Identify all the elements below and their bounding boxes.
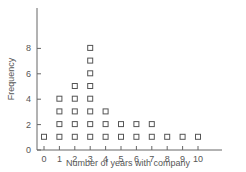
data-point-marker (196, 134, 201, 139)
data-point-marker (72, 84, 77, 89)
dot-plot-chart: 02468 012345678910 Number of years with … (0, 0, 246, 172)
data-point-marker (103, 134, 108, 139)
data-point-marker (149, 134, 154, 139)
data-point-marker (119, 134, 124, 139)
axes (37, 8, 222, 150)
data-points (42, 45, 201, 139)
data-point-marker (72, 96, 77, 101)
x-tick-label: 1 (57, 154, 62, 164)
y-tick-label: 4 (26, 94, 31, 104)
y-tick-label: 0 (26, 145, 31, 155)
x-axis-title: Number of years with company (66, 158, 191, 168)
data-point-marker (149, 122, 154, 127)
data-point-marker (103, 122, 108, 127)
data-point-marker (88, 96, 93, 101)
data-point-marker (88, 58, 93, 63)
y-axis-title: Frequency (6, 57, 16, 100)
data-point-marker (88, 84, 93, 89)
data-point-marker (57, 109, 62, 114)
data-point-marker (57, 96, 62, 101)
data-point-marker (42, 134, 47, 139)
x-tick-label: 10 (193, 154, 203, 164)
data-point-marker (88, 122, 93, 127)
data-point-marker (57, 122, 62, 127)
y-tick-label: 8 (26, 43, 31, 53)
data-point-marker (88, 109, 93, 114)
y-tick-label: 2 (26, 120, 31, 130)
data-point-marker (88, 134, 93, 139)
data-point-marker (72, 122, 77, 127)
data-point-marker (165, 134, 170, 139)
data-point-marker (119, 122, 124, 127)
data-point-marker (88, 71, 93, 76)
data-point-marker (72, 109, 77, 114)
data-point-marker (88, 45, 93, 50)
data-point-marker (103, 109, 108, 114)
y-ticks: 02468 (26, 43, 41, 155)
data-point-marker (180, 134, 185, 139)
data-point-marker (57, 134, 62, 139)
y-tick-label: 6 (26, 69, 31, 79)
data-point-marker (134, 134, 139, 139)
x-tick-label: 0 (41, 154, 46, 164)
data-point-marker (72, 134, 77, 139)
data-point-marker (134, 122, 139, 127)
